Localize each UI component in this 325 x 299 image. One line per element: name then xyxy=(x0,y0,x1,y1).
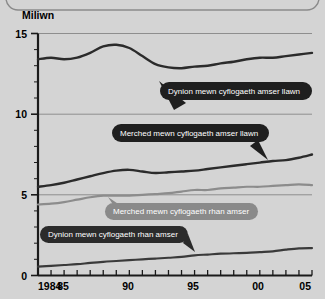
y-tick-label-10: 10 xyxy=(15,108,27,120)
callout-women-fulltime-tail xyxy=(250,140,268,160)
y-axis-title: Miliwn xyxy=(22,9,54,21)
callout-women-fulltime-label: Merched mewn cyflogaeth amser llawn xyxy=(120,129,258,138)
callout-women-parttime-label: Merched mewn cyflogaeth rhan amser xyxy=(113,207,249,216)
callout-men-parttime: Dynion mewn cyflogaeth rhan amser xyxy=(40,226,195,252)
employment-line-chart: Miliwn 15 10 5 0 1984 85 90 95 00 05 Dyn… xyxy=(0,0,325,299)
y-tick-label-15: 15 xyxy=(15,28,27,40)
line-men-fulltime xyxy=(38,45,312,68)
chart-panel: Miliwn 15 10 5 0 1984 85 90 95 00 05 Dyn… xyxy=(0,0,325,299)
callout-women-parttime: Merched mewn cyflogaeth rhan amser xyxy=(105,197,258,220)
callout-men-parttime-label: Dynion mewn cyflogaeth rhan amser xyxy=(48,230,178,239)
callout-men-fulltime-label: Dynion mewn cyflogaeth amser llawn xyxy=(168,87,300,96)
line-men-parttime xyxy=(38,248,312,267)
x-tick-label-85: 85 xyxy=(57,280,69,292)
y-tick-label-5: 5 xyxy=(21,189,27,201)
x-tick-label-00: 00 xyxy=(252,280,264,292)
x-tick-label-05: 05 xyxy=(299,280,311,292)
callout-women-fulltime: Merched mewn cyflogaeth amser llawn xyxy=(112,124,269,160)
x-tick-label-90: 90 xyxy=(122,280,134,292)
callout-men-fulltime: Dynion mewn cyflogaeth amser llawn xyxy=(159,81,312,110)
line-women-fulltime xyxy=(38,155,312,187)
x-tick-label-95: 95 xyxy=(187,280,199,292)
y-tick-label-0: 0 xyxy=(21,270,27,282)
